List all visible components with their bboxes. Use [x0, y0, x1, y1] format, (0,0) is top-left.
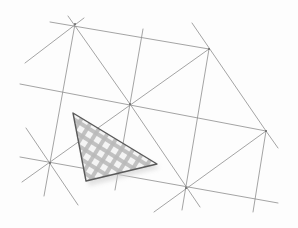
lattice-lines	[20, 16, 278, 212]
lattice-drawing	[0, 0, 298, 228]
lattice-vertices	[49, 23, 267, 189]
sketch-canvas: Pencil sketch of a triangular lattice wi…	[0, 0, 298, 228]
shaded-triangle	[73, 113, 160, 186]
